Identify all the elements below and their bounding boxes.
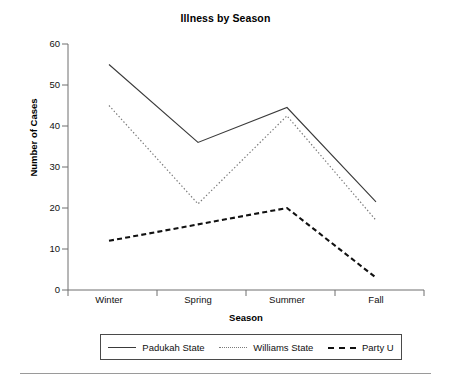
solid-line-icon	[108, 343, 136, 352]
series-line-padukah-state	[109, 65, 376, 202]
legend-item-padukah-state: Padukah State	[108, 342, 204, 353]
legend-item-party-u: Party U	[328, 342, 394, 353]
legend-label-padukah-state: Padukah State	[142, 342, 204, 353]
legend-label-party-u: Party U	[362, 342, 394, 353]
bottom-divider	[20, 373, 431, 374]
dotted-line-icon	[219, 343, 247, 352]
series-line-party-u	[109, 208, 376, 278]
y-axis-ticks	[62, 44, 68, 290]
plot-area	[0, 0, 451, 387]
chart-legend: Padukah State Williams State Party U	[100, 334, 402, 360]
chart-figure: Illness by Season Number of Cases Season…	[0, 0, 451, 387]
axis-lines	[68, 44, 424, 290]
series-line-williams-state	[109, 106, 376, 221]
legend-label-williams-state: Williams State	[253, 342, 313, 353]
dashed-line-icon	[328, 343, 356, 352]
x-axis-ticks	[68, 290, 424, 296]
legend-item-williams-state: Williams State	[219, 342, 313, 353]
